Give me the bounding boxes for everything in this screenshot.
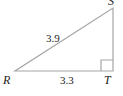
vertex-t-label: T [104,73,112,87]
triangle-diagram: 3.9 3.3 R T S [0,0,123,96]
side-rt-length: 3.3 [60,74,74,86]
vertex-r-label: R [2,73,11,87]
right-angle-marker [101,60,113,71]
side-rs-length: 3.9 [46,32,60,44]
vertex-s-label: S [108,0,114,8]
triangle-rst [15,8,113,71]
